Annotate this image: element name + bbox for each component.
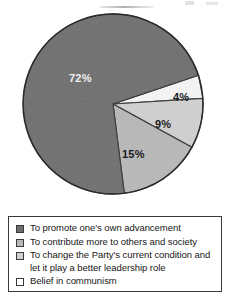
legend-item-change-party-condition[interactable]: To change the Party's current condition … xyxy=(16,249,215,274)
legend-swatch-icon xyxy=(16,252,24,260)
legend-item-label: To change the Party's current condition … xyxy=(30,249,215,274)
legend-item-label: To contribute more to others and society xyxy=(30,236,197,249)
chart-page: 72% 15% 9% 4% To promote one's own advan… xyxy=(0,0,232,302)
legend-item-contribute-to-society[interactable]: To contribute more to others and society xyxy=(16,236,215,249)
legend-item-label: To promote one's own advancement xyxy=(30,222,181,235)
legend-swatch-icon xyxy=(16,239,24,247)
pie-chart: 72% 15% 9% 4% xyxy=(0,0,232,214)
legend-item-label: Belief in communism xyxy=(30,275,117,288)
legend-item-belief-in-communism[interactable]: Belief in communism xyxy=(16,275,215,288)
pie-chart-svg xyxy=(0,0,232,214)
legend-item-own-advancement[interactable]: To promote one's own advancement xyxy=(16,222,215,235)
pie-slices xyxy=(23,14,203,194)
chart-legend: To promote one's own advancement To cont… xyxy=(8,216,222,292)
legend-swatch-icon xyxy=(16,225,24,233)
legend-swatch-icon xyxy=(16,278,24,286)
